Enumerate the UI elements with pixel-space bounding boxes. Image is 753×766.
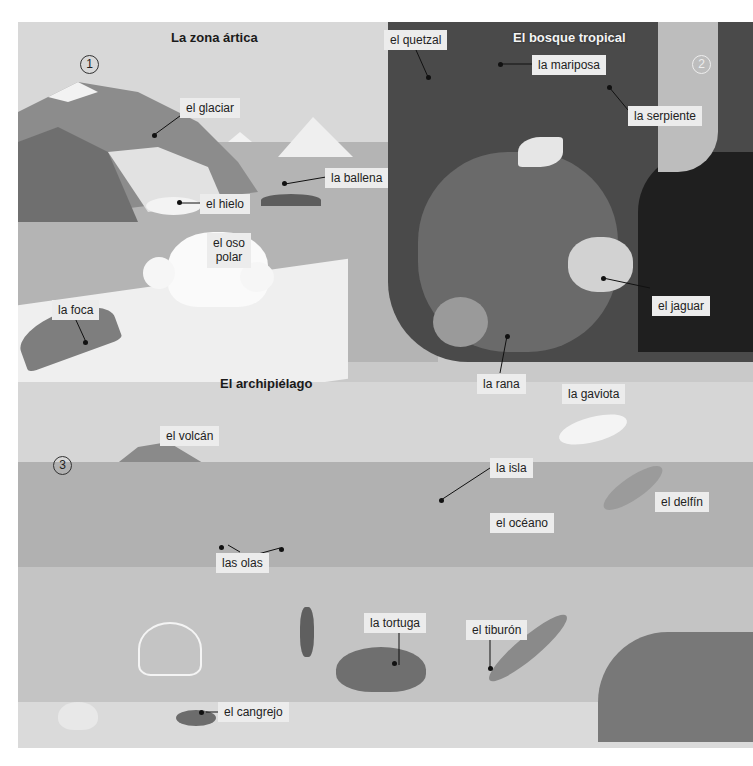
jaguar-head: [568, 237, 633, 292]
label-butterfly: la mariposa: [532, 55, 606, 75]
label-shark: el tiburón: [466, 620, 527, 640]
whale-body: [261, 194, 321, 206]
label-quetzal: el quetzal: [384, 30, 447, 50]
pointer-island: [439, 498, 444, 503]
pointer-quetzal: [426, 75, 431, 80]
section-number-2: 2: [692, 55, 711, 74]
turtle-shell: [336, 647, 426, 692]
heading-rainforest: El bosque tropical: [513, 30, 626, 45]
label-island: la isla: [490, 458, 533, 478]
shell: [58, 702, 98, 730]
tree-trunk: [658, 22, 718, 172]
pointer-frog: [505, 334, 510, 339]
label-waves: las olas: [216, 553, 269, 573]
label-polar-bear: el oso polar: [207, 233, 251, 268]
label-seagull: la gaviota: [562, 384, 625, 404]
pointer-butterfly: [498, 62, 503, 67]
label-seal: la foca: [52, 300, 99, 320]
pointer-snake: [607, 85, 612, 90]
section-number-1: 1: [80, 55, 99, 74]
coral-reef: [598, 632, 753, 742]
pointer-glacier: [152, 133, 157, 138]
label-snake: la serpiente: [628, 106, 702, 126]
icebergs: [228, 102, 388, 162]
jellyfish: [138, 622, 202, 676]
label-volcano: el volcán: [160, 426, 219, 446]
pointer-waves-left: [219, 545, 224, 550]
section-number-3: 3: [53, 456, 72, 475]
pointer-waves-right: [279, 547, 284, 552]
pointer-jaguar: [601, 276, 606, 281]
rainforest-dark-bush: [638, 152, 753, 352]
label-ice: el hielo: [200, 194, 250, 214]
label-glacier: el glaciar: [180, 98, 240, 118]
pointer-whale: [282, 181, 287, 186]
pointer-shark: [488, 666, 493, 671]
label-jaguar: el jaguar: [652, 296, 710, 316]
label-whale: la ballena: [325, 168, 388, 188]
crab: [176, 710, 216, 726]
pointer-seal: [83, 340, 88, 345]
label-frog: la rana: [477, 374, 526, 394]
heading-arctic-zone: La zona ártica: [171, 30, 258, 45]
label-ocean: el océano: [490, 513, 554, 533]
illustration-scene: [18, 22, 753, 748]
heading-archipelago: El archipiélago: [220, 376, 312, 391]
label-dolphin: el delfín: [655, 492, 709, 512]
label-polar-bear-line1: el oso: [213, 236, 245, 250]
ice-floe-small: [146, 197, 201, 215]
label-polar-bear-line2: polar: [216, 250, 243, 264]
frog-leaf: [433, 297, 488, 347]
pointer-ice: [177, 200, 182, 205]
seahorse: [300, 607, 314, 657]
label-crab: el cangrejo: [218, 702, 289, 722]
polar-bear-cub: [143, 257, 175, 289]
parrot-wing: [518, 137, 563, 167]
pointer-crab: [199, 710, 204, 715]
label-turtle: la tortuga: [364, 613, 426, 633]
pointer-turtle: [392, 661, 397, 666]
